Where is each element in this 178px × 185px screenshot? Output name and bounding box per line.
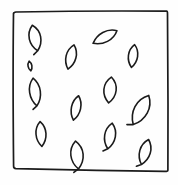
leaf-lower-left xyxy=(35,121,47,147)
leaf-bottom-right xyxy=(135,138,153,169)
leaf-lower-left-outline xyxy=(35,121,47,147)
leaf-middle-right-upper-outline xyxy=(103,76,118,103)
leaf-top-left-outline xyxy=(27,24,44,55)
leaf-group xyxy=(27,24,155,172)
leaf-center-outline xyxy=(69,95,83,121)
leaf-center xyxy=(69,95,83,121)
sketch-illustration: Scattered leaf shapes inside a hand-draw… xyxy=(0,0,178,185)
leaf-lower-center-right xyxy=(102,122,118,152)
leaf-top-center-left-outline xyxy=(63,44,79,71)
leaf-bottom-center-outline xyxy=(69,140,84,172)
leaf-top-center-tilted xyxy=(91,26,120,48)
sketch-canvas: Scattered leaf shapes inside a hand-draw… xyxy=(0,0,178,185)
leaf-middle-left-outline xyxy=(28,77,43,109)
leaf-top-center-left xyxy=(63,44,79,71)
leaf-lower-center-right-outline xyxy=(102,122,118,152)
leaf-bottom-center xyxy=(69,140,84,172)
leaf-bottom-right-outline xyxy=(135,138,153,169)
leaf-right-large-outline xyxy=(126,92,155,130)
leaf-top-right-outline xyxy=(127,44,139,68)
leaf-middle-right-upper xyxy=(103,76,118,103)
leaf-top-center-tilted-outline xyxy=(91,26,120,48)
leaf-left-lower-edge-outline xyxy=(27,61,33,72)
leaf-top-left xyxy=(27,24,44,55)
leaf-middle-left xyxy=(28,77,43,109)
leaf-right-large xyxy=(126,92,155,130)
leaf-top-right xyxy=(127,44,139,68)
leaf-left-lower-edge xyxy=(27,61,33,72)
